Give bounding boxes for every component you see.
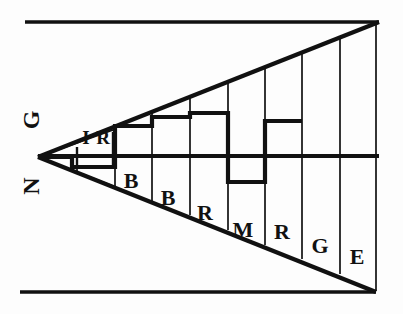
wedge-diagram: G N I R B B R M R G E — [0, 0, 403, 314]
label-g-rotated: G — [18, 110, 44, 129]
segment-label-b1: B — [124, 168, 139, 193]
segment-label-m: M — [233, 217, 254, 242]
segment-label-r3: R — [274, 219, 291, 244]
segment-label-e: E — [350, 244, 365, 269]
figure-root: G N I R B B R M R G E — [0, 0, 403, 314]
segment-label-g: G — [311, 233, 328, 258]
segment-label-r1: R — [96, 127, 110, 148]
segment-label-r2: R — [197, 200, 214, 225]
segment-label-b2: B — [161, 185, 176, 210]
segment-label-i: I — [82, 127, 89, 148]
label-n-rotated: N — [18, 177, 44, 195]
